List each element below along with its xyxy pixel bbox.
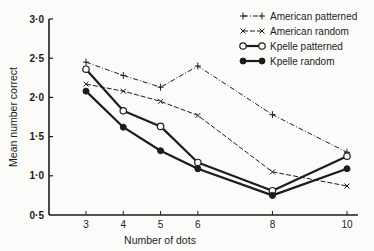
legend-item: Kpelle patterned xyxy=(240,41,343,52)
line-chart: 0·51·01·52·02·53·03456810 American patte… xyxy=(0,0,374,251)
series-line xyxy=(86,91,347,195)
open-circle-marker-icon xyxy=(344,153,350,159)
x-tick-label: 8 xyxy=(270,219,276,230)
filled-circle-marker-icon xyxy=(195,166,201,172)
x-tick-label: 10 xyxy=(341,219,353,230)
x-tick-label: 4 xyxy=(121,219,127,230)
y-tick-label: 1·0 xyxy=(30,170,45,181)
y-tick-label: 2·0 xyxy=(30,92,45,103)
filled-circle-marker-icon xyxy=(344,166,350,172)
filled-circle-marker-icon xyxy=(269,192,275,198)
legend-label: American random xyxy=(270,26,349,37)
y-tick-label: 0·5 xyxy=(30,210,45,221)
x-tick-label: 3 xyxy=(83,219,89,230)
filled-circle-marker-icon xyxy=(120,124,126,130)
open-circle-marker-icon xyxy=(240,43,246,49)
y-axis-label: Mean number correct xyxy=(7,67,19,167)
filled-circle-marker-icon xyxy=(240,58,246,64)
open-circle-marker-icon xyxy=(259,43,265,49)
open-circle-marker-icon xyxy=(195,159,201,165)
filled-circle-marker-icon xyxy=(83,88,89,94)
filled-circle-marker-icon xyxy=(259,58,265,64)
legend-label: Kpelle random xyxy=(270,56,334,67)
x-axis-label: Number of dots xyxy=(124,234,196,246)
filled-circle-marker-icon xyxy=(158,148,164,154)
legend-label: American patterned xyxy=(270,11,357,22)
legend: American patternedAmerican randomKpelle … xyxy=(240,11,357,67)
y-tick-label: 2·5 xyxy=(30,53,45,64)
series-kpelle-random xyxy=(83,88,350,198)
legend-label: Kpelle patterned xyxy=(270,41,343,52)
legend-item: American random xyxy=(241,26,349,37)
open-circle-marker-icon xyxy=(83,66,89,72)
x-tick-label: 6 xyxy=(195,219,201,230)
open-circle-marker-icon xyxy=(120,108,126,114)
series-group xyxy=(83,59,350,199)
open-circle-marker-icon xyxy=(157,123,163,129)
y-tick-label: 1·5 xyxy=(30,131,45,142)
legend-item: American patterned xyxy=(240,11,357,22)
x-tick-label: 5 xyxy=(158,219,164,230)
y-tick-label: 3·0 xyxy=(30,14,45,25)
legend-item: Kpelle random xyxy=(240,56,334,67)
